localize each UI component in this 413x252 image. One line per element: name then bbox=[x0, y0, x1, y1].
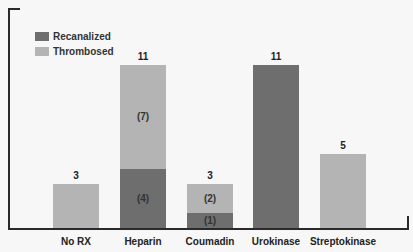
bar-segment-recanalized: (4) bbox=[120, 169, 166, 228]
bar-segment-thrombosed bbox=[320, 154, 366, 228]
bar-segment-thrombosed: (2) bbox=[187, 184, 233, 214]
legend-item-thrombosed: Thrombosed bbox=[35, 44, 114, 59]
legend: Recanalized Thrombosed bbox=[35, 29, 114, 59]
frame-right-tick bbox=[407, 216, 409, 230]
x-tick-label: Streptokinase bbox=[303, 236, 383, 247]
legend-label: Recanalized bbox=[53, 31, 111, 42]
legend-item-recanalized: Recanalized bbox=[35, 29, 114, 44]
bar-total-label: 3 bbox=[187, 170, 233, 181]
bar-segment-thrombosed bbox=[53, 184, 99, 228]
legend-swatch-recanalized bbox=[35, 32, 49, 41]
frame-top-tick bbox=[8, 8, 20, 10]
bar-total-label: 5 bbox=[320, 140, 366, 151]
bar-total-label: 3 bbox=[53, 170, 99, 181]
legend-label: Thrombosed bbox=[53, 46, 114, 57]
bar-segment-recanalized bbox=[253, 65, 299, 228]
y-axis-line bbox=[8, 8, 10, 230]
bar-segment-thrombosed: (7) bbox=[120, 65, 166, 169]
bar-segment-recanalized: (1) bbox=[187, 213, 233, 228]
bar-total-label: 11 bbox=[253, 51, 299, 62]
bar-total-label: 11 bbox=[120, 51, 166, 62]
x-axis-line bbox=[8, 228, 409, 230]
legend-swatch-thrombosed bbox=[35, 47, 49, 56]
